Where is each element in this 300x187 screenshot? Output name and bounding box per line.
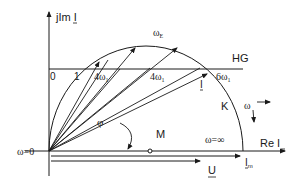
- omega-zero-label: ω=0: [17, 146, 34, 157]
- u-label: U: [208, 164, 216, 176]
- hg-scale-4w1-a: 4ω1: [94, 71, 109, 83]
- circle-diagram: jIm I Re I ω=0 ω=∞ ωE HG K M φ ω I Im U …: [0, 0, 300, 187]
- omega-e-label: ωE: [153, 27, 164, 39]
- hg-label: HG: [232, 52, 249, 64]
- hg-scale-4w1-b: 4ω1: [150, 71, 165, 83]
- hg-scale-6w1: 6ω1: [216, 71, 231, 83]
- imag-axis-label: jIm I: [55, 11, 77, 23]
- center-m-dot: [148, 149, 152, 153]
- omega-inf-label: ω=∞: [205, 134, 224, 145]
- real-axis-label: Re I: [260, 137, 280, 149]
- phasor-7: [49, 69, 120, 151]
- k-label: K: [221, 100, 229, 112]
- phi-angle-arc: [120, 123, 132, 149]
- hg-scale-1: 1: [74, 71, 80, 82]
- m-label: M: [156, 128, 165, 140]
- i-vector-label: I: [200, 79, 203, 90]
- phi-label: φ: [97, 116, 103, 128]
- omega-direction-label: ω: [244, 100, 251, 111]
- omega-down-arrow: [253, 110, 254, 122]
- phasor-5: [49, 68, 200, 151]
- im-label: Im: [245, 157, 253, 169]
- hg-scale-0: 0: [50, 71, 56, 82]
